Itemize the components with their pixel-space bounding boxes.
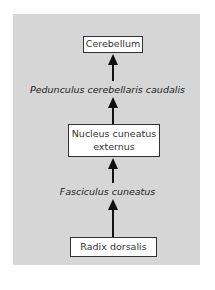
node-cerebellum: Cerebellum <box>83 36 143 53</box>
node-nucleus-label-line2: externus <box>93 141 135 154</box>
arrow-radix-to-nucleus-upper <box>112 167 114 183</box>
arrow-nucleus-to-cerebellum <box>112 63 114 81</box>
edge-label-pedunculus: Pedunculus cerebellaris caudalis <box>0 84 215 95</box>
node-radix-label: Radix dorsalis <box>80 241 146 254</box>
node-cerebellum-label: Cerebellum <box>86 38 140 51</box>
arrow-radix-to-nucleus <box>112 208 114 237</box>
node-nucleus-cuneatus-externus: Nucleus cuneatus externus <box>68 124 160 157</box>
arrow-nucleus-to-cerebellum-lower <box>112 106 114 124</box>
node-radix-dorsalis: Radix dorsalis <box>70 237 157 257</box>
node-nucleus-label-line1: Nucleus cuneatus <box>72 128 156 141</box>
edge-label-fasciculus: Fasciculus cuneatus <box>0 186 215 197</box>
